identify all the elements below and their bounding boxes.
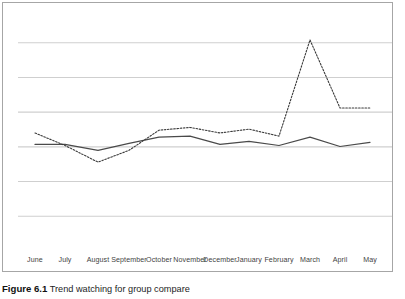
series-lines-group — [35, 40, 370, 162]
x-tick-label-january: January — [236, 256, 262, 264]
x-axis-tick-labels: JuneJulyAugustSeptemberOctoberNovemberDe… — [3, 256, 394, 272]
x-tick-label-september: September — [111, 256, 147, 264]
x-tick-label-july: July — [58, 256, 71, 264]
figure-caption: Figure 6.1 Trend watching for group comp… — [2, 283, 402, 294]
figure-container: JuneJulyAugustSeptemberOctoberNovemberDe… — [0, 0, 405, 299]
series-line-1 — [35, 136, 370, 150]
x-tick-label-december: December — [203, 256, 237, 264]
x-tick-label-february: February — [264, 256, 293, 264]
x-tick-label-april: April — [333, 256, 348, 264]
x-tick-label-june: June — [27, 256, 43, 264]
figure-caption-text: Trend watching for group compare — [50, 284, 190, 294]
x-tick-label-may: May — [363, 256, 377, 264]
chart-plot-frame: JuneJulyAugustSeptemberOctoberNovemberDe… — [2, 2, 393, 272]
x-tick-label-march: March — [300, 256, 320, 264]
x-tick-label-october: October — [146, 256, 172, 264]
x-tick-label-november: November — [173, 256, 207, 264]
series-line-2 — [35, 40, 370, 162]
x-tick-label-august: August — [87, 256, 110, 264]
line-chart-canvas — [3, 3, 394, 273]
figure-caption-label: Figure 6.1 — [2, 283, 47, 294]
gridlines-group — [18, 43, 392, 217]
